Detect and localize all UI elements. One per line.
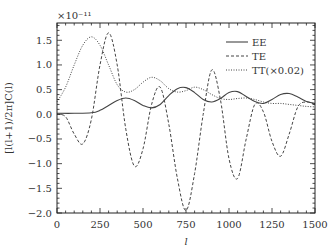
ticks [57,23,315,213]
plot-lines [57,33,315,211]
legend-label-ee: EE [252,37,267,48]
y-tick-label: −0.5 [28,133,52,144]
x-tick-label: 0 [54,219,60,230]
y-scale-note: ×10⁻¹¹ [57,10,91,21]
axes-frame [57,23,315,213]
y-axis-label: [l(l+1)/2π]C(l) [3,82,14,154]
x-tick-label: 1000 [216,219,241,230]
y-tick-label: 1.5 [36,35,52,46]
legend-label-te: TE [252,51,266,62]
y-tick-label: −1.0 [28,158,52,169]
y-tick-label: 0.0 [36,109,52,120]
x-tick-label: 1250 [259,219,284,230]
y-tick-label: 1.0 [36,59,52,70]
x-axis-label: l [184,236,187,247]
chart: 0250500750100012501500−2.0−1.5−1.0−0.50.… [0,0,333,250]
y-tick-label: −1.5 [28,183,52,194]
y-tick-label: 0.5 [36,84,52,95]
x-tick-label: 250 [90,219,109,230]
x-tick-label: 500 [133,219,152,230]
legend: EE TE TT(×0.02) [226,37,304,76]
series-te-line [57,33,315,211]
legend-label-tt: TT(×0.02) [252,65,304,76]
y-tick-label: −2.0 [28,208,52,219]
x-tick-label: 1500 [302,219,327,230]
x-tick-label: 750 [176,219,195,230]
